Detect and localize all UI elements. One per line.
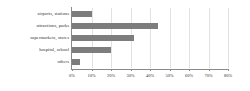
bar-chart: airports, stationsattractions, parkssupe… — [0, 0, 250, 91]
plot-area — [72, 8, 228, 68]
x-tick-label: 40% — [146, 73, 154, 79]
gridline — [228, 8, 229, 68]
x-tick-label: 0% — [69, 73, 75, 79]
x-tick-label: 60% — [185, 73, 193, 79]
x-tick-label: 80% — [224, 73, 232, 79]
bar-row — [72, 56, 228, 68]
bar-row — [72, 20, 228, 32]
bar-row — [72, 44, 228, 56]
x-tick-label: 30% — [126, 73, 134, 79]
x-tick-label: 10% — [87, 73, 95, 79]
category-label: others — [57, 59, 69, 65]
category-label: hospital, school — [39, 47, 69, 53]
category-label: attractions, parks — [36, 23, 69, 29]
y-axis-line — [71, 7, 72, 69]
category-label: supermarkets, stores — [30, 35, 69, 41]
x-tick-label: 70% — [204, 73, 212, 79]
x-axis-line — [71, 69, 229, 70]
x-tick-label: 20% — [107, 73, 115, 79]
bar — [72, 11, 92, 17]
bar — [72, 23, 158, 29]
bar-row — [72, 8, 228, 20]
bar — [72, 47, 111, 53]
bar-row — [72, 32, 228, 44]
x-tick-label: 50% — [165, 73, 173, 79]
bar — [72, 59, 80, 65]
category-label: airports, stations — [37, 11, 69, 17]
bar — [72, 35, 134, 41]
